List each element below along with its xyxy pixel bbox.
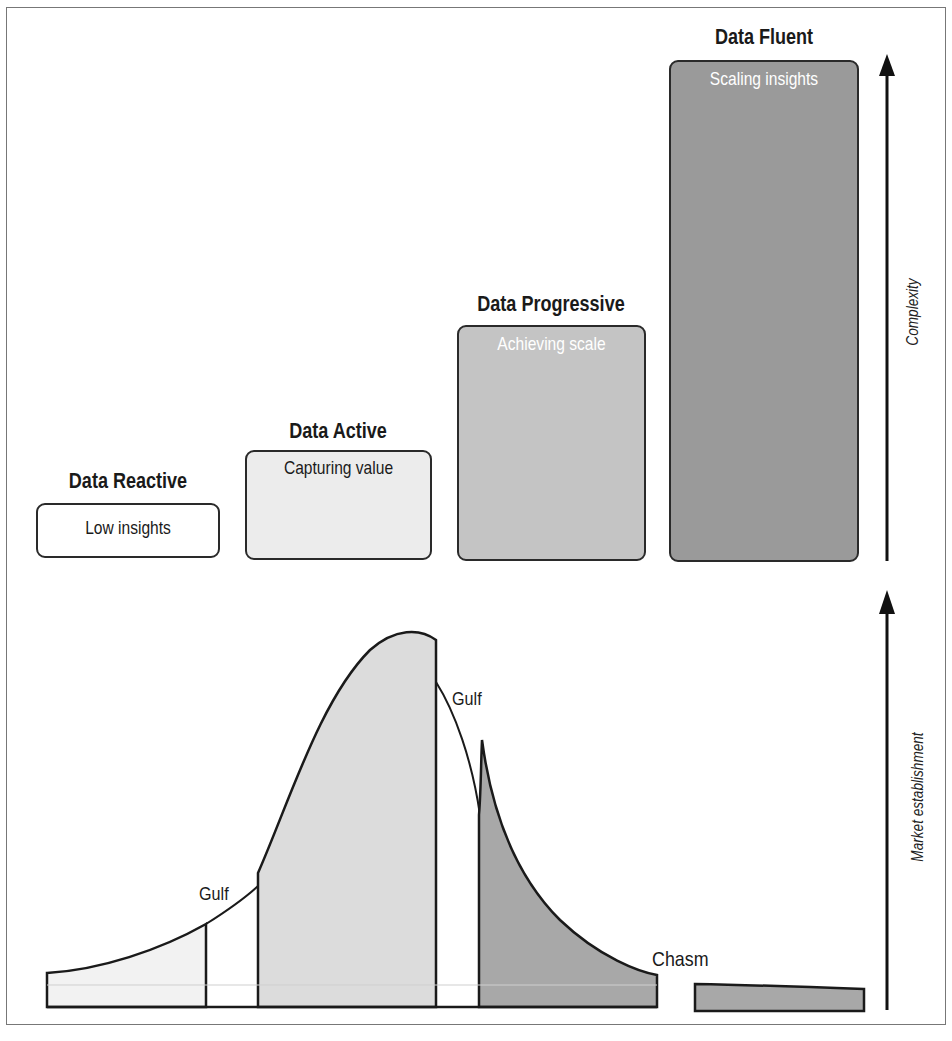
- gulf-label-1: Gulf: [199, 883, 229, 905]
- gulf-label-2: Gulf: [452, 688, 482, 710]
- curve-segment-fluent: [695, 984, 864, 1011]
- curve-segment-progressive: [479, 740, 657, 1007]
- complexity-arrow-icon: [879, 54, 895, 561]
- curve-segment-reactive: [47, 924, 206, 1007]
- axis-label-complexity: Complexity: [904, 270, 922, 355]
- curve-segment-active: [258, 632, 436, 1007]
- diagram-graphics: [0, 0, 952, 1041]
- chasm-label: Chasm: [652, 947, 709, 971]
- axis-label-market-establishment: Market establishment: [909, 725, 927, 870]
- market-arrow-icon: [879, 590, 895, 1010]
